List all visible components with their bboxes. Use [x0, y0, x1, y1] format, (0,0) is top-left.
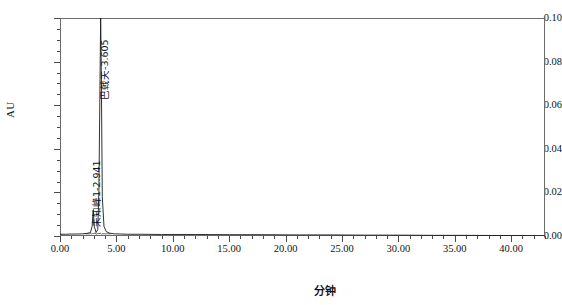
x-tick-mark — [511, 236, 512, 242]
x-tick-mark — [116, 236, 117, 242]
x-tick-label: 25.00 — [330, 244, 354, 254]
x-tick-label: 5.00 — [107, 244, 125, 254]
x-tick-mark — [229, 236, 230, 242]
chromatogram-trace — [60, 18, 545, 236]
x-tick-mark — [342, 236, 343, 242]
x-tick-label: 20.00 — [274, 244, 298, 254]
peak-label-peak-unknown-1: 未知峰1-2.941 — [89, 160, 103, 227]
x-tick-label: 35.00 — [443, 244, 467, 254]
x-tick-minor — [274, 236, 275, 239]
x-tick-minor — [387, 236, 388, 239]
x-tick-minor — [308, 236, 309, 239]
x-tick-minor — [94, 236, 95, 239]
x-tick-minor — [252, 236, 253, 239]
x-tick-minor — [432, 236, 433, 239]
x-tick-minor — [71, 236, 72, 239]
x-tick-minor — [184, 236, 185, 239]
x-tick-minor — [500, 236, 501, 239]
x-tick-minor — [128, 236, 129, 239]
x-tick-minor — [263, 236, 264, 239]
x-tick-minor — [545, 236, 546, 239]
x-tick-minor — [105, 236, 106, 239]
x-tick-label: 30.00 — [387, 244, 411, 254]
x-tick-minor — [207, 236, 208, 239]
x-tick-minor — [534, 236, 535, 239]
x-tick-minor — [319, 236, 320, 239]
x-tick-minor — [139, 236, 140, 239]
x-tick-minor — [218, 236, 219, 239]
x-tick-minor — [240, 236, 241, 239]
x-tick-minor — [421, 236, 422, 239]
x-tick-minor — [522, 236, 523, 239]
x-tick-label: 10.00 — [161, 244, 185, 254]
x-tick-mark — [455, 236, 456, 242]
y-axis-title: AU — [4, 101, 16, 118]
x-tick-minor — [376, 236, 377, 239]
x-tick-label: 0.00 — [51, 244, 69, 254]
x-tick-minor — [297, 236, 298, 239]
chromatogram-chart: AU 0.000.020.040.060.080.10 未知峰1-2.941巴戟… — [0, 0, 562, 305]
x-tick-minor — [410, 236, 411, 239]
x-tick-minor — [365, 236, 366, 239]
x-tick-minor — [466, 236, 467, 239]
peak-label-peak-bajitian: 巴戟天-3.605 — [97, 39, 111, 100]
x-tick-minor — [162, 236, 163, 239]
x-tick-minor — [353, 236, 354, 239]
x-tick-minor — [150, 236, 151, 239]
x-tick-mark — [286, 236, 287, 242]
x-tick-mark — [173, 236, 174, 242]
x-tick-label: 40.00 — [499, 244, 523, 254]
x-tick-minor — [83, 236, 84, 239]
x-tick-label: 15.00 — [217, 244, 241, 254]
x-tick-minor — [477, 236, 478, 239]
x-tick-mark — [60, 236, 61, 242]
trace-path — [60, 18, 545, 236]
x-tick-minor — [331, 236, 332, 239]
x-axis-title: 分钟 — [0, 282, 562, 298]
x-tick-minor — [489, 236, 490, 239]
x-tick-minor — [195, 236, 196, 239]
x-tick-minor — [443, 236, 444, 239]
x-tick-mark — [398, 236, 399, 242]
